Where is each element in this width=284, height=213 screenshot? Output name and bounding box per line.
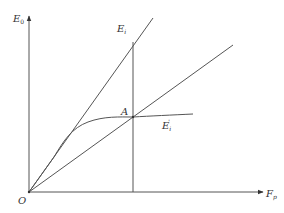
x-axis-label: Fp [265,188,277,201]
origin-label: O [18,195,26,206]
point-a-marker [132,116,134,118]
diagram: E0 Fp O Ei A Ei' [0,0,284,213]
point-a-label: A [120,106,128,117]
secant-line [29,45,233,192]
steep-line-label: Ei [116,23,126,35]
saturation-curve-label: Ei' [161,118,171,132]
y-axis-label: E0 [12,13,24,25]
origin-marker [28,191,30,193]
